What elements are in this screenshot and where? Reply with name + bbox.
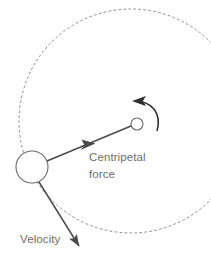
velocity-label: Velocity bbox=[20, 233, 61, 245]
orbiting-object bbox=[16, 151, 48, 183]
diagram-canvas: Centripetal force Velocity bbox=[0, 0, 211, 254]
physics-diagram: Centripetal force Velocity bbox=[0, 0, 211, 254]
centripetal-force-label-line1: Centripetal bbox=[89, 151, 146, 163]
centripetal-force-label-line2: force bbox=[89, 168, 115, 180]
dashed-circular-path bbox=[19, 9, 211, 233]
rotation-center bbox=[131, 118, 143, 130]
